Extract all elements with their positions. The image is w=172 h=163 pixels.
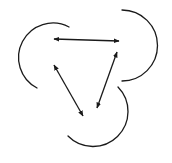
bottom-arc — [68, 87, 128, 147]
left-diagonal-arrow-icon — [54, 65, 83, 116]
arrows-group — [54, 39, 119, 116]
arcs-group — [19, 10, 158, 147]
right-arc — [122, 10, 158, 81]
top-arrow-icon — [54, 39, 119, 41]
cycle-diagram — [0, 0, 172, 163]
right-diagonal-arrow-icon — [97, 52, 117, 108]
